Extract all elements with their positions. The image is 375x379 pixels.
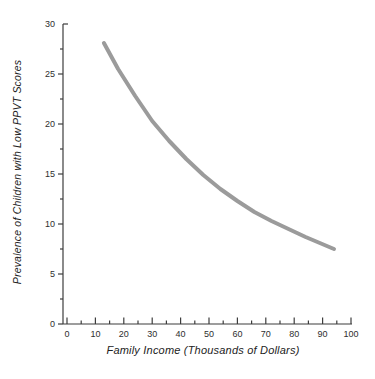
y-tick-label: 20 bbox=[45, 119, 55, 129]
y-tick-label: 10 bbox=[45, 219, 55, 229]
plot-area: 0102030405060708090100051015202530 bbox=[0, 0, 375, 379]
y-tick-label: 5 bbox=[50, 269, 55, 279]
y-axis-title: Prevalence of Children with Low PPVT Sco… bbox=[11, 60, 23, 285]
x-tick-label: 40 bbox=[176, 329, 186, 339]
x-tick-label: 10 bbox=[90, 329, 100, 339]
x-tick-label: 20 bbox=[119, 329, 129, 339]
x-axis-title: Family Income (Thousands of Dollars) bbox=[55, 344, 351, 356]
x-tick-label: 0 bbox=[64, 329, 69, 339]
y-tick-label: 15 bbox=[45, 169, 55, 179]
x-tick-label: 90 bbox=[318, 329, 328, 339]
x-tick-label: 100 bbox=[343, 329, 358, 339]
ppvt-income-chart: 0102030405060708090100051015202530 Preva… bbox=[0, 0, 375, 379]
prevalence-vs-income-curve bbox=[104, 43, 334, 249]
y-tick-label: 0 bbox=[50, 319, 55, 329]
x-tick-label: 30 bbox=[147, 329, 157, 339]
x-tick-label: 60 bbox=[232, 329, 242, 339]
y-tick-label: 30 bbox=[45, 19, 55, 29]
x-tick-label: 70 bbox=[261, 329, 271, 339]
x-tick-label: 80 bbox=[289, 329, 299, 339]
y-tick-label: 25 bbox=[45, 69, 55, 79]
x-tick-label: 50 bbox=[204, 329, 214, 339]
